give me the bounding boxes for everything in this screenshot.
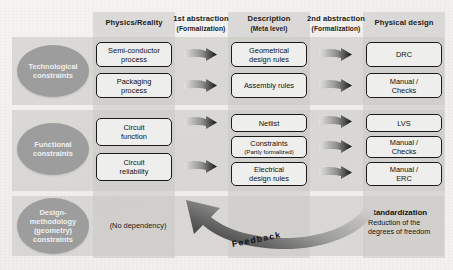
box-constraints[interactable]: Constraints (Partly formalized)	[231, 136, 307, 158]
arrow-netlist-to-lvs	[319, 115, 353, 129]
box-constraints-sublabel: (Partly formalized)	[244, 148, 293, 156]
box-circuit-reliability-line1: Circuit	[124, 158, 145, 167]
arrow-circuit-function-to-netlist	[184, 116, 218, 130]
box-semiconductor-process[interactable]: Semi-conductor process	[96, 42, 172, 67]
box-assembly-rules[interactable]: Assembly rules	[231, 73, 307, 98]
ellipse-design-line2: methodology	[30, 217, 76, 226]
box-circuit-reliability[interactable]: Circuit reliability	[96, 153, 172, 181]
box-packaging-line1: Packaging	[117, 77, 152, 86]
ellipse-technological-line2: constraints	[33, 71, 73, 80]
box-semiconductor-line1: Semi-conductor	[108, 46, 160, 55]
box-electrical-line2: design rules	[249, 174, 289, 183]
column-header-abs1-sub: (Formalization)	[177, 25, 226, 32]
box-netlist-label: Netlist	[259, 119, 280, 128]
box-manual-erc[interactable]: Manual / ERC	[366, 162, 442, 186]
ellipse-functional-constraints: Functional constraints	[17, 123, 89, 175]
arrow-geometrical-to-drc	[319, 48, 353, 62]
box-circuit-function-line2: function	[121, 132, 147, 141]
box-packaging-process[interactable]: Packaging process	[96, 73, 172, 98]
box-manual-erc-line1: Manual /	[390, 165, 418, 174]
box-constraints-label: Constraints	[250, 139, 287, 148]
ellipse-technological-constraints: Technological constraints	[17, 45, 89, 97]
box-lvs-label: LVS	[397, 119, 410, 128]
label-no-dependency: (No dependency)	[100, 221, 176, 230]
box-drc[interactable]: DRC	[366, 42, 442, 67]
arrow-packaging-to-assembly	[184, 79, 218, 93]
box-circuit-function-line1: Circuit	[124, 123, 145, 132]
box-circuit-function[interactable]: Circuit function	[96, 118, 172, 146]
ellipse-design-line1: Design-	[39, 208, 66, 217]
box-manual-checks-func-line2: Checks	[392, 147, 417, 156]
box-netlist[interactable]: Netlist	[231, 114, 307, 132]
diagram-canvas: Physics/Reality 1st abstraction (Formali…	[0, 0, 453, 270]
standardization-desc-line1: Reduction of the	[368, 218, 448, 227]
box-geometrical-design-rules[interactable]: Geometrical design rules	[231, 42, 307, 67]
box-semiconductor-line2: process	[121, 55, 147, 64]
box-manual-checks-func-line1: Manual /	[390, 138, 418, 147]
column-header-abs2-sub: (Formalization)	[312, 25, 361, 32]
box-manual-checks-technological[interactable]: Manual / Checks	[366, 73, 442, 98]
arrow-assembly-to-manual-checks	[319, 79, 353, 93]
ellipse-functional-line1: Functional	[34, 140, 71, 149]
arrow-constraints-to-manual-checks	[319, 140, 353, 154]
label-no-dependency-text: (No dependency)	[110, 221, 167, 230]
ellipse-technological-line1: Technological	[28, 62, 77, 71]
arrow-electrical-to-manual-erc	[319, 166, 353, 180]
box-circuit-reliability-line2: reliability	[120, 167, 149, 176]
box-manual-checks-functional[interactable]: Manual / Checks	[366, 136, 442, 158]
column-header-physics-label: Physics/Reality	[105, 18, 162, 27]
feedback-arrow-icon	[170, 192, 380, 254]
ellipse-design-line3: (geometry)	[34, 226, 72, 235]
column-header-abs1-label: 1st abstraction	[173, 14, 229, 23]
box-lvs[interactable]: LVS	[366, 114, 442, 132]
box-manual-checks-tech-line2: Checks	[392, 86, 417, 95]
column-header-physical: Physical design	[363, 18, 445, 28]
ellipse-design-methodology-constraints: Design- methodology (geometry) constrain…	[17, 198, 89, 254]
column-header-abs2-label: 2nd abstraction	[307, 14, 365, 23]
box-manual-checks-tech-line1: Manual /	[390, 77, 418, 86]
ellipse-design-line4: constraints	[33, 235, 73, 244]
box-assembly-label: Assembly rules	[244, 81, 294, 90]
box-geometrical-line2: design rules	[249, 55, 289, 64]
ellipse-functional-line2: constraints	[33, 149, 73, 158]
arrow-circuit-reliability-to-electrical	[184, 160, 218, 174]
column-header-description-label: Description	[248, 14, 291, 23]
box-electrical-line1: Electrical	[254, 165, 284, 174]
box-electrical-design-rules[interactable]: Electrical design rules	[231, 162, 307, 186]
box-geometrical-line1: Geometrical	[249, 46, 289, 55]
box-packaging-line2: process	[121, 86, 147, 95]
arrow-semiconductor-to-geometrical	[184, 48, 218, 62]
box-drc-label: DRC	[396, 50, 412, 59]
box-manual-erc-line2: ERC	[396, 174, 412, 183]
standardization-block: Standardization Reduction of the degrees…	[368, 208, 448, 237]
standardization-title: Standardization	[368, 208, 448, 217]
column-header-physical-label: Physical design	[375, 18, 434, 27]
column-header-description-sub: (Meta level)	[250, 25, 287, 32]
standardization-desc-line2: degrees of freedom	[368, 227, 448, 236]
